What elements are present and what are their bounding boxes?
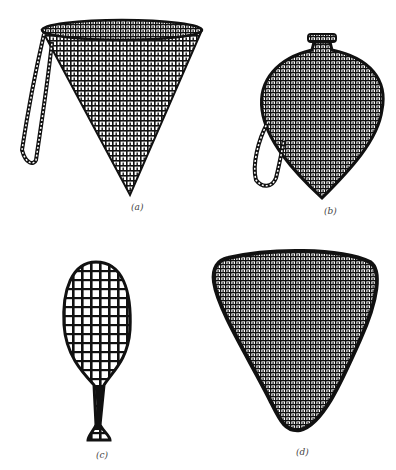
panel-label-d: (d)	[296, 447, 309, 457]
basket-a	[22, 20, 202, 195]
panel-label-c: (c)	[96, 450, 108, 460]
basket-d	[214, 251, 377, 430]
panel-label-a: (a)	[131, 202, 143, 212]
basket-c	[64, 262, 130, 440]
basket-b	[255, 34, 383, 198]
panel-label-b: (b)	[324, 206, 337, 216]
basket-illustrations	[0, 0, 396, 470]
